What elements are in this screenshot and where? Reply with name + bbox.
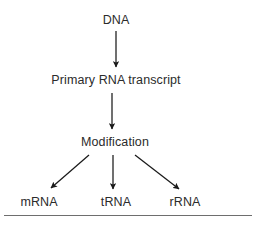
arrow-layer [0,0,256,225]
rna-processing-diagram: DNA Primary RNA transcript Modification … [0,0,256,225]
bottom-divider [4,215,252,216]
arrow-modification-to-mrna [51,155,89,188]
node-label-mrna: mRNA [20,196,57,209]
arrow-modification-to-rrna [135,155,179,189]
node-label-dna: DNA [103,14,130,27]
node-label-modification: Modification [81,136,149,149]
node-label-rrna: rRNA [170,196,201,209]
node-label-trna: tRNA [101,196,131,209]
node-label-primary-rna-transcript: Primary RNA transcript [51,74,180,87]
